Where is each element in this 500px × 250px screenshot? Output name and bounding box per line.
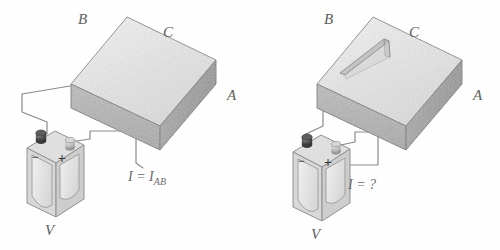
battery-left-label-v: V <box>45 223 54 238</box>
figure-canvas <box>0 0 500 250</box>
current-label-left-main: I = I <box>128 169 154 184</box>
block-right-label-b: B <box>324 12 333 27</box>
battery-right-positive-post <box>331 141 340 154</box>
block-left-label-a: A <box>227 88 236 103</box>
wire-left-negative <box>22 85 76 137</box>
battery-left-positive-sign: + <box>58 152 66 166</box>
battery-right-negative-sign: − <box>298 155 305 167</box>
block-left-label-b: B <box>78 12 87 27</box>
block-right-label-a: A <box>473 88 482 103</box>
battery-left-negative-sign: − <box>32 151 39 163</box>
current-label-right: I = ? <box>348 178 376 195</box>
current-label-left-sub: AB <box>154 176 166 187</box>
battery-right <box>293 134 350 221</box>
battery-right-positive-sign: + <box>324 156 332 170</box>
battery-right-negative-post <box>302 134 312 148</box>
block-left-label-c: C <box>163 25 173 40</box>
current-label-right-main: I = ? <box>348 177 376 192</box>
panel-right <box>293 17 462 221</box>
current-label-left: I = IAB <box>128 170 166 187</box>
battery-left-positive-post <box>65 137 74 150</box>
panel-left <box>22 17 216 217</box>
physics-figure: B C A − + V I = IAB B C A − + V I = ? <box>0 0 500 250</box>
battery-left <box>27 130 84 217</box>
battery-right-label-v: V <box>311 227 320 242</box>
block-right-label-c: C <box>409 25 419 40</box>
battery-left-negative-post <box>36 130 46 144</box>
